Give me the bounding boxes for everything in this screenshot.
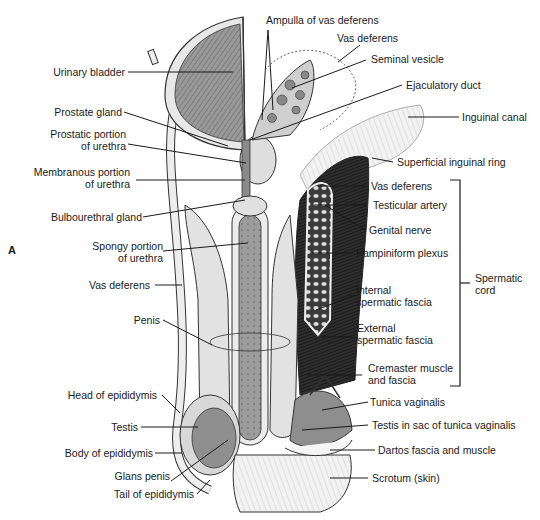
label-superficial-inguinal-ring: Superficial inguinal ring [397, 156, 506, 168]
label-vas-deferens-cord: Vas deferens [371, 180, 432, 192]
label-testis: Testis [111, 421, 138, 433]
label-head-epididymis: Head of epididymis [68, 389, 157, 401]
label-dartos: Dartos fascia and muscle [378, 444, 496, 456]
prostate-drawing [240, 136, 276, 200]
label-genital-nerve: Genital nerve [369, 224, 431, 236]
label-ampulla: Ampulla of vas deferens [266, 14, 379, 26]
label-body-epididymis: Body of epididymis [65, 447, 153, 459]
spermatic-cord-drawing [295, 156, 368, 395]
label-spermatic-cord: Spermaticcord [475, 272, 522, 296]
label-vas-deferens-top: Vas deferens [337, 32, 398, 44]
label-penis: Penis [134, 314, 160, 326]
label-pampiniform-plexus: Pampiniform plexus [356, 247, 448, 259]
label-vas-deferens-left: Vas deferens [89, 279, 150, 291]
spermatic-cord-bracket [450, 180, 470, 386]
testis-left-drawing [180, 395, 240, 475]
panel-letter: A [8, 244, 16, 256]
anatomy-illustration [0, 0, 540, 520]
label-inguinal-canal: Inguinal canal [462, 111, 527, 123]
label-cremaster: Cremaster muscleand fascia [368, 362, 453, 386]
urinary-bladder-drawing [165, 17, 245, 150]
label-glans-penis: Glans penis [115, 470, 170, 482]
label-urinary-bladder: Urinary bladder [53, 66, 125, 78]
label-scrotum: Scrotum (skin) [372, 472, 440, 484]
label-tail-epididymis: Tail of epididymis [114, 488, 194, 500]
label-testis-in-sac: Testis in sac of tunica vaginalis [372, 419, 516, 431]
seminal-vesicle-drawing [252, 50, 356, 140]
label-bulbourethral-gland: Bulbourethral gland [51, 211, 142, 223]
label-prostatic-urethra: Prostatic portionof urethra [50, 128, 126, 152]
label-spongy-urethra: Spongy portionof urethra [92, 240, 163, 264]
label-external-spermatic-fascia: Externalspermatic fascia [357, 322, 433, 346]
label-ejaculatory-duct: Ejaculatory duct [406, 79, 481, 91]
label-seminal-vesicle: Seminal vesicle [371, 53, 444, 65]
label-internal-spermatic-fascia: Internalspermatic fascia [356, 284, 432, 308]
label-prostate-gland: Prostate gland [54, 106, 122, 118]
label-testicular-artery: Testicular artery [373, 199, 447, 211]
label-tunica-vaginalis: Tunica vaginalis [370, 396, 445, 408]
label-membranous-urethra: Membranous portionof urethra [34, 166, 130, 190]
